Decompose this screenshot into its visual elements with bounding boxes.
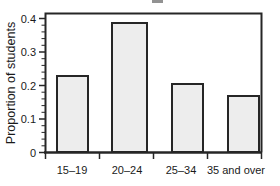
cropped-title-fragment — [152, 0, 163, 3]
bar-20-24 — [112, 23, 147, 152]
bar-15-19 — [57, 76, 88, 152]
y-tick-label-1: 0.1 — [21, 113, 36, 125]
y-axis-title: Proportion of students — [4, 22, 18, 144]
y-tick-label-0: 0 — [30, 147, 36, 159]
x-category-label-25-34: 25–34 — [166, 164, 197, 176]
bar-25-34 — [172, 84, 203, 152]
bar-35-and-over — [228, 96, 259, 152]
bar-chart-figure: 0 0.1 0.2 0.3 0.4 15–19 20–24 25–34 35 a… — [0, 0, 280, 186]
y-tick-label-3: 0.3 — [21, 46, 36, 58]
y-tick-label-4: 0.4 — [21, 13, 36, 25]
x-category-label-35-and-over: 35 and over — [207, 164, 265, 176]
x-category-label-15-19: 15–19 — [57, 164, 88, 176]
chart-canvas: 0 0.1 0.2 0.3 0.4 15–19 20–24 25–34 35 a… — [0, 0, 280, 186]
x-category-label-20-24: 20–24 — [112, 164, 143, 176]
y-tick-label-2: 0.2 — [21, 80, 36, 92]
